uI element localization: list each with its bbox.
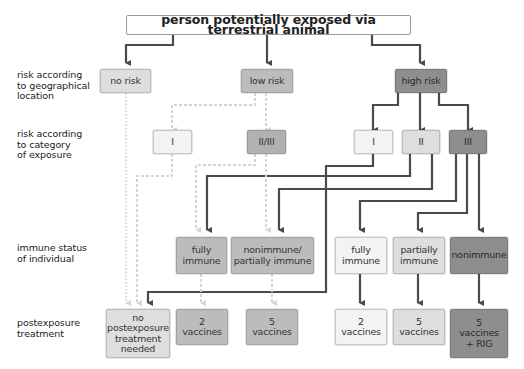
node-low-2-vaccines: 2 vaccines [176, 309, 228, 345]
node-no-risk: no risk [100, 69, 151, 93]
row-label-geographical: risk according to geographical location [17, 70, 90, 102]
row-label-immune: immune status of individual [17, 243, 87, 264]
node-low-5-vaccines: 5 vaccines [246, 309, 298, 345]
node-high-2-vaccines: 2 vaccines [335, 309, 387, 345]
node-high-nonimmune: nonimmune [450, 237, 508, 274]
node-low-nonimmune-partial: nonimmune/ partially immune [231, 237, 314, 274]
root-exposure-node: person potentially exposed via terrestri… [126, 15, 411, 35]
node-high-cat-III: III [449, 130, 487, 154]
node-low-fully-immune: fully immune [176, 237, 227, 274]
node-high-fully-immune: fully immune [335, 237, 387, 274]
node-high-cat-I: I [354, 130, 393, 154]
node-high-cat-II: II [402, 130, 440, 154]
node-low-risk: low risk [241, 69, 293, 93]
row-label-treatment: postexposure treatment [17, 318, 80, 339]
node-high-partially-immune: partially immune [393, 237, 445, 274]
node-low-cat-II-III: II/III [247, 130, 286, 154]
row-label-category: risk according to category of exposure [17, 129, 82, 161]
root-label: person potentially exposed via terrestri… [127, 15, 410, 36]
node-high-5-vaccines: 5 vaccines [393, 309, 445, 345]
node-no-treatment: no postexposure treatment needed [106, 309, 170, 358]
node-high-risk: high risk [395, 69, 447, 93]
node-high-5-vaccines-rig: 5 vaccines + RIG [450, 309, 508, 358]
node-low-cat-I: I [153, 130, 192, 154]
